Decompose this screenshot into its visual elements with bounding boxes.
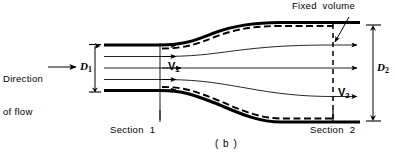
fixed-volume-label: Fixed volume — [292, 1, 355, 12]
direction-of-flow-line-1: Direction — [3, 74, 43, 85]
velocity-1-label: V1 — [168, 60, 180, 74]
control-volume-boundary — [162, 26, 333, 119]
direction-of-flow-label: Direction of flow — [3, 52, 43, 139]
figure-caption: ( b ) — [215, 138, 238, 150]
diameter-1-label: D1 — [80, 60, 92, 74]
velocity-2-subscript: 2 — [345, 91, 349, 100]
velocity-2-label: V2 — [338, 86, 350, 100]
diameter-2-label: D2 — [377, 61, 389, 75]
streamlines — [104, 45, 357, 97]
diameter-2-symbol: D — [377, 61, 385, 73]
fixed-volume-leader-line — [335, 17, 349, 42]
figure-diverging-duct-control-volume: Direction of flow D1 V1 Fixed volume D2 … — [0, 0, 395, 155]
duct-bottom-wall — [104, 91, 360, 123]
section-2-label: Section 2 — [310, 125, 355, 136]
diameter-1-symbol: D — [80, 60, 88, 72]
streamline-upper — [104, 45, 357, 57]
diameter-1-subscript: 1 — [88, 65, 92, 74]
section-1-label: Section 1 — [110, 125, 155, 136]
diameter-2-subscript: 2 — [385, 66, 389, 75]
control-volume-bottom-dashed-line — [162, 87, 333, 119]
direction-of-flow-line-2: of flow — [3, 107, 43, 118]
streamline-lower — [104, 80, 357, 97]
velocity-1-subscript: 1 — [175, 65, 179, 74]
